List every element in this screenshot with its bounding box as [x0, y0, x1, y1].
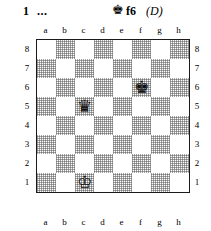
- file-label: f: [131, 24, 150, 37]
- board-square-h4[interactable]: [170, 116, 189, 135]
- board-square-e2[interactable]: [113, 154, 132, 173]
- board-square-c8[interactable]: [75, 40, 94, 59]
- board-square-f8[interactable]: [132, 40, 151, 59]
- board-square-a2[interactable]: [37, 154, 56, 173]
- board-square-f6[interactable]: ♚: [132, 78, 151, 97]
- board-square-g3[interactable]: [151, 135, 170, 154]
- rank-label: 7: [20, 58, 34, 77]
- board-square-e8[interactable]: [113, 40, 132, 59]
- board-square-b3[interactable]: [56, 135, 75, 154]
- move-number: 1: [23, 4, 29, 18]
- board-square-c6[interactable]: [75, 78, 94, 97]
- board-square-a8[interactable]: [37, 40, 56, 59]
- board-square-a1[interactable]: [37, 173, 56, 192]
- chessboard: ♚♛♔: [36, 39, 190, 193]
- board-square-e3[interactable]: [113, 135, 132, 154]
- diagram-tag-label: (D): [146, 4, 163, 18]
- board-square-g2[interactable]: [151, 154, 170, 173]
- board-square-f5[interactable]: [132, 97, 151, 116]
- board-square-d2[interactable]: [94, 154, 113, 173]
- board-square-e5[interactable]: [113, 97, 132, 116]
- board-square-a4[interactable]: [37, 116, 56, 135]
- board-square-b8[interactable]: [56, 40, 75, 59]
- board-square-g4[interactable]: [151, 116, 170, 135]
- board-square-g1[interactable]: [151, 173, 170, 192]
- board-square-c1[interactable]: ♔: [75, 173, 94, 192]
- board-square-h3[interactable]: [170, 135, 189, 154]
- rank-label: 6: [190, 77, 204, 96]
- file-labels-top: a b c d e f g h: [36, 24, 188, 37]
- black-king-icon[interactable]: ♚: [132, 78, 151, 97]
- board-square-b7[interactable]: [56, 59, 75, 78]
- board-square-f7[interactable]: [132, 59, 151, 78]
- board-square-a3[interactable]: [37, 135, 56, 154]
- file-label: a: [36, 24, 55, 37]
- board-square-e1[interactable]: [113, 173, 132, 192]
- file-label: e: [112, 216, 131, 229]
- board-square-a6[interactable]: [37, 78, 56, 97]
- file-label: c: [74, 24, 93, 37]
- board-square-d5[interactable]: [94, 97, 113, 116]
- file-labels-bottom: a b c d e f g h: [36, 216, 188, 229]
- board-square-b2[interactable]: [56, 154, 75, 173]
- chess-diagram: a b c d e f g h 8 7 6 5 4 3 2 1 8 7 6 5 …: [0, 22, 211, 231]
- file-label: d: [93, 216, 112, 229]
- file-label: d: [93, 24, 112, 37]
- board-square-b5[interactable]: [56, 97, 75, 116]
- board-square-h6[interactable]: [170, 78, 189, 97]
- rank-label: 8: [20, 39, 34, 58]
- board-square-d1[interactable]: [94, 173, 113, 192]
- rank-label: 4: [20, 115, 34, 134]
- board-square-g8[interactable]: [151, 40, 170, 59]
- board-square-f2[interactable]: [132, 154, 151, 173]
- board-square-c3[interactable]: [75, 135, 94, 154]
- board-square-c2[interactable]: [75, 154, 94, 173]
- board-square-g5[interactable]: [151, 97, 170, 116]
- board-square-d4[interactable]: [94, 116, 113, 135]
- board-square-f1[interactable]: [132, 173, 151, 192]
- board-square-h7[interactable]: [170, 59, 189, 78]
- board-square-b4[interactable]: [56, 116, 75, 135]
- board-square-e7[interactable]: [113, 59, 132, 78]
- board-square-h8[interactable]: [170, 40, 189, 59]
- file-label: g: [150, 24, 169, 37]
- rank-label: 4: [190, 115, 204, 134]
- move-header: 1 ... ♚ f6 (D): [0, 1, 211, 21]
- board-square-a7[interactable]: [37, 59, 56, 78]
- board-square-e4[interactable]: [113, 116, 132, 135]
- file-label: h: [169, 216, 188, 229]
- rank-label: 5: [20, 96, 34, 115]
- board-square-c5[interactable]: ♛: [75, 97, 94, 116]
- board-square-h1[interactable]: [170, 173, 189, 192]
- board-square-e6[interactable]: [113, 78, 132, 97]
- rank-label: 5: [190, 96, 204, 115]
- rank-labels-right: 8 7 6 5 4 3 2 1: [190, 39, 204, 191]
- board-square-g7[interactable]: [151, 59, 170, 78]
- board-square-h5[interactable]: [170, 97, 189, 116]
- move-ellipsis: ...: [37, 4, 48, 18]
- rank-label: 1: [190, 172, 204, 191]
- board-square-g6[interactable]: [151, 78, 170, 97]
- board-square-b6[interactable]: [56, 78, 75, 97]
- rank-label: 1: [20, 172, 34, 191]
- board-square-d3[interactable]: [94, 135, 113, 154]
- black-queen-icon[interactable]: ♛: [75, 97, 94, 116]
- board-square-f3[interactable]: [132, 135, 151, 154]
- board-square-c7[interactable]: [75, 59, 94, 78]
- board-square-d6[interactable]: [94, 78, 113, 97]
- board-square-a5[interactable]: [37, 97, 56, 116]
- file-label: f: [131, 216, 150, 229]
- rank-labels-left: 8 7 6 5 4 3 2 1: [20, 39, 34, 191]
- king-icon: ♚: [112, 3, 124, 17]
- board-square-h2[interactable]: [170, 154, 189, 173]
- file-label: a: [36, 216, 55, 229]
- file-label: e: [112, 24, 131, 37]
- white-king-icon[interactable]: ♔: [75, 173, 94, 192]
- board-square-f4[interactable]: [132, 116, 151, 135]
- board-square-d7[interactable]: [94, 59, 113, 78]
- rank-label: 3: [20, 134, 34, 153]
- board-square-b1[interactable]: [56, 173, 75, 192]
- move-square-label: f6: [126, 4, 136, 18]
- board-square-d8[interactable]: [94, 40, 113, 59]
- board-square-c4[interactable]: [75, 116, 94, 135]
